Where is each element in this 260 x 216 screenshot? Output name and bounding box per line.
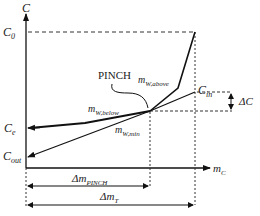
cout-label: Cout bbox=[3, 149, 22, 165]
mw-min-label: mW,min bbox=[115, 124, 140, 138]
mw-below-label: mW,below bbox=[88, 103, 119, 117]
delta-m-t-label: ΔmT bbox=[99, 190, 119, 205]
pinch-leader bbox=[112, 84, 148, 108]
composite-curve-above bbox=[150, 32, 195, 111]
pinch-diagram: C C0 PINCH mW,above mW,below mW,min Cin … bbox=[0, 0, 260, 216]
cin-label: Cin bbox=[198, 83, 212, 99]
delta-c-label: ΔC bbox=[238, 95, 253, 107]
x-axis-label: mC bbox=[213, 162, 226, 177]
cin-line bbox=[150, 92, 195, 111]
pinch-label: PINCH bbox=[98, 69, 131, 81]
ce-label: Ce bbox=[4, 121, 16, 137]
ce-arrow bbox=[28, 128, 40, 129]
y-axis-label: C bbox=[22, 1, 31, 15]
delta-m-pinch-label: ΔmPINCH bbox=[71, 172, 108, 187]
c0-label: C0 bbox=[3, 25, 15, 41]
mw-above-label: mW,above bbox=[138, 74, 169, 88]
